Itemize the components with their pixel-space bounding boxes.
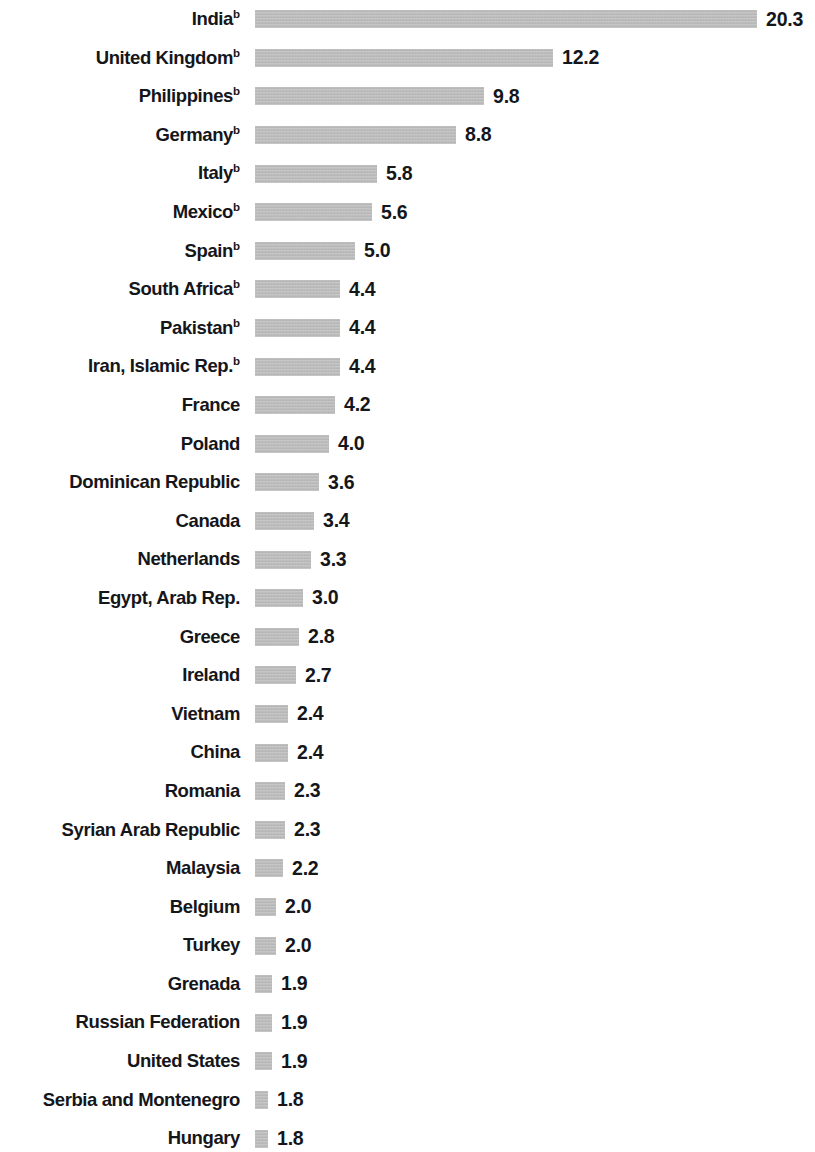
- bar-row: South Africab4.4: [0, 270, 815, 309]
- bar: [255, 1091, 268, 1109]
- bar-value-label: 5.0: [364, 241, 391, 261]
- bar-value-label: 3.6: [328, 473, 355, 493]
- bar-chart-rows: Indiab20.3United Kingdomb12.2Philippines…: [0, 0, 815, 1152]
- footnote-marker: b: [233, 162, 240, 174]
- bar-area: 5.6: [240, 193, 815, 232]
- category-label-text: Turkey: [183, 934, 240, 955]
- bar-row: Ireland2.7: [0, 656, 815, 695]
- bar: [255, 1014, 272, 1032]
- bar: [255, 782, 285, 800]
- category-label: Romania: [0, 782, 240, 801]
- bar-row: United Kingdomb12.2: [0, 39, 815, 78]
- category-label: Philippinesb: [0, 87, 240, 106]
- category-label-text: Philippines: [139, 85, 233, 106]
- bar-value-label: 2.3: [294, 781, 321, 801]
- category-label: Pakistanb: [0, 319, 240, 338]
- bar-value-label: 2.4: [297, 743, 324, 763]
- category-label: Egypt, Arab Rep.: [0, 589, 240, 608]
- category-label: Vietnam: [0, 705, 240, 724]
- category-label: Indiab: [0, 10, 240, 29]
- bar-value-label: 4.4: [349, 280, 376, 300]
- category-label: Dominican Republic: [0, 473, 240, 492]
- bar-value-label: 5.8: [386, 164, 413, 184]
- bar-row: Egypt, Arab Rep.3.0: [0, 579, 815, 618]
- category-label-text: Grenada: [168, 973, 240, 994]
- bar: [255, 551, 311, 569]
- bar-value-label: 2.8: [308, 627, 335, 647]
- bar-row: Turkey2.0: [0, 926, 815, 965]
- bar: [255, 1052, 272, 1070]
- bar-area: 12.2: [240, 39, 815, 78]
- bar-row: Serbia and Montenegro1.8: [0, 1081, 815, 1120]
- category-label-text: Ireland: [182, 664, 240, 685]
- category-label-text: United Kingdom: [96, 47, 233, 68]
- bar-value-label: 1.8: [277, 1129, 304, 1149]
- bar-value-label: 1.9: [281, 1013, 308, 1033]
- category-label: Ireland: [0, 666, 240, 685]
- bar: [255, 1130, 268, 1148]
- bar-area: 1.9: [240, 1042, 815, 1081]
- bar-row: Dominican Republic3.6: [0, 463, 815, 502]
- bar: [255, 10, 757, 28]
- bar-value-label: 1.8: [277, 1090, 304, 1110]
- category-label: Belgium: [0, 898, 240, 917]
- bar: [255, 589, 303, 607]
- category-label: Poland: [0, 435, 240, 454]
- category-label: Turkey: [0, 936, 240, 955]
- bar-value-label: 2.2: [292, 859, 319, 879]
- category-label: Syrian Arab Republic: [0, 821, 240, 840]
- bar-row: France4.2: [0, 386, 815, 425]
- bar-area: 9.8: [240, 77, 815, 116]
- bar-row: Germanyb8.8: [0, 116, 815, 155]
- category-label-text: Romania: [165, 780, 240, 801]
- footnote-marker: b: [233, 85, 240, 97]
- bar: [255, 358, 340, 376]
- bar-value-label: 3.0: [312, 588, 339, 608]
- bar-row: Russian Federation1.9: [0, 1003, 815, 1042]
- category-label-text: Hungary: [168, 1127, 240, 1148]
- category-label-text: China: [191, 741, 240, 762]
- category-label-text: Italy: [198, 162, 233, 183]
- category-label: Russian Federation: [0, 1013, 240, 1032]
- bar-value-label: 2.3: [294, 820, 321, 840]
- bar: [255, 435, 329, 453]
- category-label-text: Malaysia: [166, 857, 240, 878]
- bar-row: Syrian Arab Republic2.3: [0, 810, 815, 849]
- bar-row: Romania2.3: [0, 772, 815, 811]
- category-label: China: [0, 743, 240, 762]
- bar-value-label: 2.4: [297, 704, 324, 724]
- category-label: Greece: [0, 628, 240, 647]
- bar: [255, 859, 283, 877]
- bar-value-label: 2.0: [285, 936, 312, 956]
- bar-row: Netherlands3.3: [0, 540, 815, 579]
- category-label-text: Mexico: [173, 201, 233, 222]
- bar-row: Indiab20.3: [0, 0, 815, 39]
- bar-area: 5.8: [240, 154, 815, 193]
- category-label-text: Canada: [176, 510, 240, 531]
- category-label-text: Spain: [185, 240, 233, 261]
- bar-value-label: 4.0: [338, 434, 365, 454]
- bar: [255, 937, 276, 955]
- category-label-text: South Africa: [128, 278, 233, 299]
- category-label-text: Greece: [180, 626, 240, 647]
- category-label-text: Poland: [181, 433, 240, 454]
- bar-area: 4.0: [240, 425, 815, 464]
- footnote-marker: b: [233, 124, 240, 136]
- bar-area: 2.3: [240, 810, 815, 849]
- bar-value-label: 2.7: [305, 666, 332, 686]
- bar-value-label: 1.9: [281, 1052, 308, 1072]
- bar-area: 1.9: [240, 1003, 815, 1042]
- category-label-text: Syrian Arab Republic: [62, 819, 240, 840]
- category-label-text: Iran, Islamic Rep.: [88, 355, 233, 376]
- bar-area: 2.8: [240, 618, 815, 657]
- bar: [255, 280, 340, 298]
- bar-area: 1.8: [240, 1081, 815, 1120]
- category-label: United Kingdomb: [0, 49, 240, 68]
- category-label-text: Germany: [156, 124, 233, 145]
- category-label: Canada: [0, 512, 240, 531]
- bar-row: Pakistanb4.4: [0, 309, 815, 348]
- bar: [255, 975, 272, 993]
- bar-row: Vietnam2.4: [0, 695, 815, 734]
- bar-value-label: 1.9: [281, 974, 308, 994]
